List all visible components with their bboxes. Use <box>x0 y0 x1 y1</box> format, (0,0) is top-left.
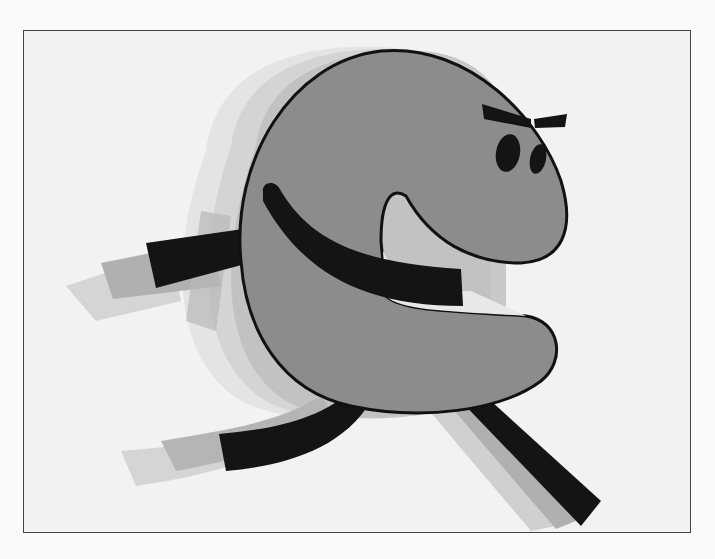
right-eyebrow <box>534 114 567 128</box>
running-c-character-illustration <box>24 31 691 533</box>
illustration-frame <box>23 30 691 533</box>
